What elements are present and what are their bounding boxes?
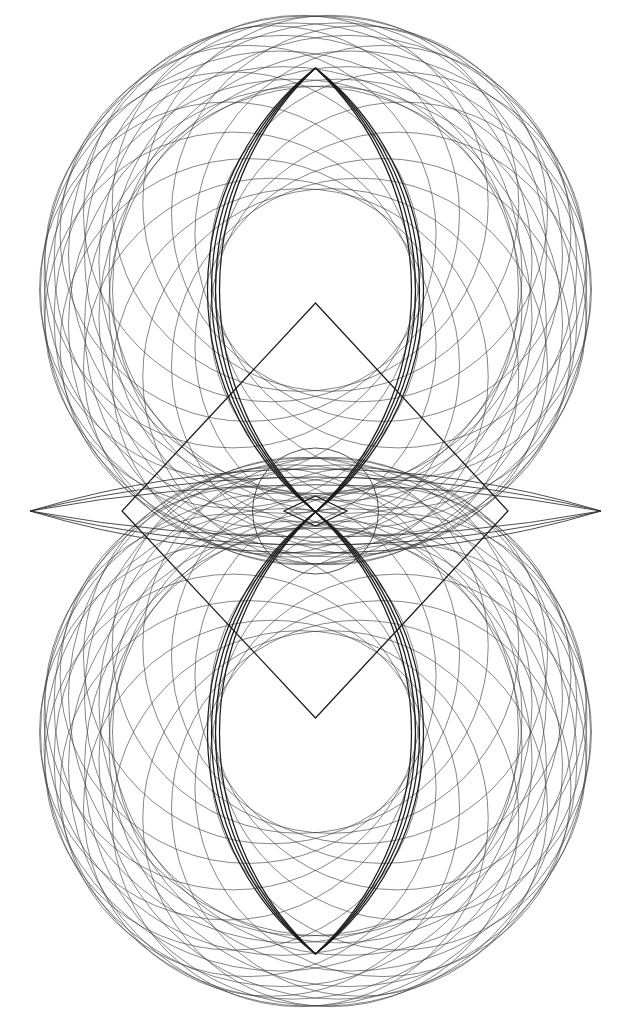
artboard	[0, 0, 631, 1016]
geometric-rosette-figure	[0, 0, 631, 1016]
